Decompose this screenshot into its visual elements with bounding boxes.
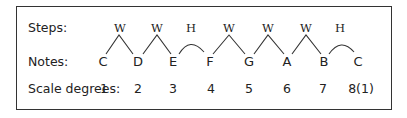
- step-label: W: [300, 21, 312, 35]
- scale-degree: 2: [134, 81, 142, 96]
- notes-row-label: Notes:: [28, 54, 68, 69]
- scale-degree: 5: [245, 81, 253, 96]
- note-label: B: [320, 54, 329, 69]
- whole-step-connector: [254, 35, 284, 54]
- step-label: H: [335, 21, 345, 35]
- whole-step-connector: [292, 35, 321, 54]
- whole-step-connector: [106, 35, 133, 54]
- step-label: W: [262, 21, 274, 35]
- note-label: G: [244, 54, 254, 69]
- step-label: W: [114, 21, 126, 35]
- steps-row-label: Steps:: [28, 20, 67, 35]
- note-label: F: [206, 54, 213, 69]
- note-label: C: [98, 54, 107, 69]
- scale-degree: 7: [319, 81, 327, 96]
- scale-degree: 8(1): [348, 81, 374, 96]
- note-label: E: [169, 54, 177, 69]
- note-label: C: [353, 54, 362, 69]
- step-label: H: [186, 21, 196, 35]
- whole-step-connector: [143, 35, 171, 54]
- step-label: W: [151, 21, 163, 35]
- note-label: D: [133, 54, 143, 69]
- scale-degree: 6: [283, 81, 291, 96]
- step-label: W: [223, 21, 235, 35]
- scale-degree: 1: [100, 81, 108, 96]
- whole-step-connector: [213, 35, 245, 54]
- note-label: A: [283, 54, 292, 69]
- half-step-arc: [329, 45, 354, 54]
- scale-degree: 3: [169, 81, 177, 96]
- scale-degree: 4: [207, 81, 215, 96]
- half-step-arc: [179, 44, 204, 54]
